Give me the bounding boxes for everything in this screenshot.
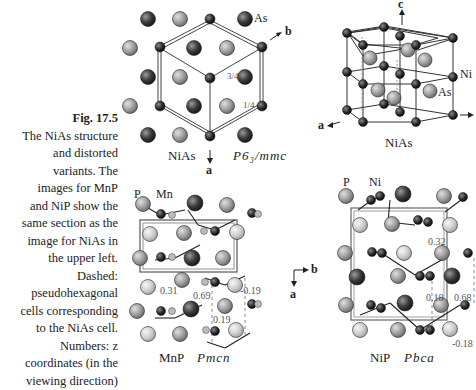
niP-panel — [338, 186, 475, 338]
ni-atom-label: Ni — [460, 67, 472, 82]
axis-a-label: a — [290, 287, 296, 302]
p-atom-label: P — [343, 175, 350, 190]
z-coordinate-label: 1/4 — [243, 100, 255, 110]
niAs-name-label: NiAs — [168, 148, 195, 164]
niP-name-label: NiP — [370, 350, 390, 366]
axis-c-label: c — [398, 0, 403, 12]
axis-a-label: a — [206, 163, 212, 178]
z-coordinate-label: 0.68 — [454, 292, 472, 303]
z-coordinate-label: -0.19 — [240, 285, 261, 296]
axis-b-label: b — [285, 24, 292, 39]
axis-b-label: b — [311, 262, 318, 277]
z-coordinate-label: 0.18 — [426, 292, 444, 303]
p-atom-label: P — [134, 187, 141, 202]
space-group-label: Pbca — [404, 350, 435, 366]
ni-atom-label: Ni — [369, 175, 381, 190]
space-group-label: Pmcn — [197, 350, 231, 366]
niAs-projection-panel — [123, 12, 283, 165]
niAs-name-label: NiAs — [385, 135, 412, 151]
mnP-panel — [130, 195, 262, 348]
mn-atom-label: Mn — [156, 187, 173, 202]
z-coordinate-label: 0.32 — [428, 236, 446, 247]
z-coordinate-label: 3/4 — [227, 71, 239, 81]
z-coordinate-label: -0.18 — [452, 338, 473, 349]
z-coordinate-label: 0.69 — [193, 290, 211, 301]
caption-line: viewing direction) — [26, 374, 118, 388]
as-atom-label: As — [438, 85, 451, 100]
as-atom-label: As — [254, 11, 267, 26]
z-coordinate-label: 0.19 — [213, 314, 231, 325]
space-group-label: P6₃/mmc — [233, 148, 287, 164]
mnP-name-label: MnP — [159, 350, 184, 366]
axis-a-label: a — [318, 118, 324, 133]
z-coordinate-label: 0.31 — [160, 285, 178, 296]
